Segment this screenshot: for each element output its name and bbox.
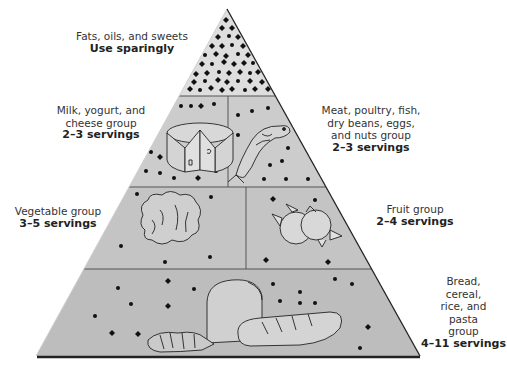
label-meat: Meat, poultry, fish, dry beans, eggs, an… [311, 104, 431, 154]
label-vegetable-name: Vegetable group [8, 205, 108, 218]
label-bread-name-5: group [420, 325, 507, 338]
label-vegetable-servings: 3–5 servings [8, 218, 108, 231]
label-milk: Milk, yogurt, and cheese group 2–3 servi… [46, 104, 156, 142]
label-bread-name-2: cereal, [420, 288, 507, 301]
label-fruit-name: Fruit group [370, 203, 460, 216]
label-fruit: Fruit group 2–4 servings [370, 203, 460, 228]
label-milk-servings: 2–3 servings [46, 129, 156, 142]
label-bread-name-4: pasta [420, 313, 507, 326]
label-vegetable: Vegetable group 3–5 servings [8, 205, 108, 230]
label-milk-name-1: Milk, yogurt, and [46, 104, 156, 117]
label-bread-name-1: Bread, [420, 275, 507, 288]
label-fats-name: Fats, oils, and sweets [62, 30, 202, 43]
label-fruit-servings: 2–4 servings [370, 216, 460, 229]
label-fats: Fats, oils, and sweets Use sparingly [62, 30, 202, 55]
label-bread-name-3: rice, and [420, 300, 507, 313]
label-bread-servings: 4–11 servings [420, 338, 507, 351]
label-bread: Bread, cereal, rice, and pasta group 4–1… [420, 275, 507, 350]
cheese-illustration [167, 123, 233, 172]
label-meat-name-1: Meat, poultry, fish, [311, 104, 431, 117]
label-meat-name-3: and nuts group [311, 129, 431, 142]
label-meat-servings: 2–3 servings [311, 142, 431, 155]
label-meat-name-2: dry beans, eggs, [311, 117, 431, 130]
broccoli-illustration [141, 192, 201, 245]
label-fats-servings: Use sparingly [62, 43, 202, 56]
